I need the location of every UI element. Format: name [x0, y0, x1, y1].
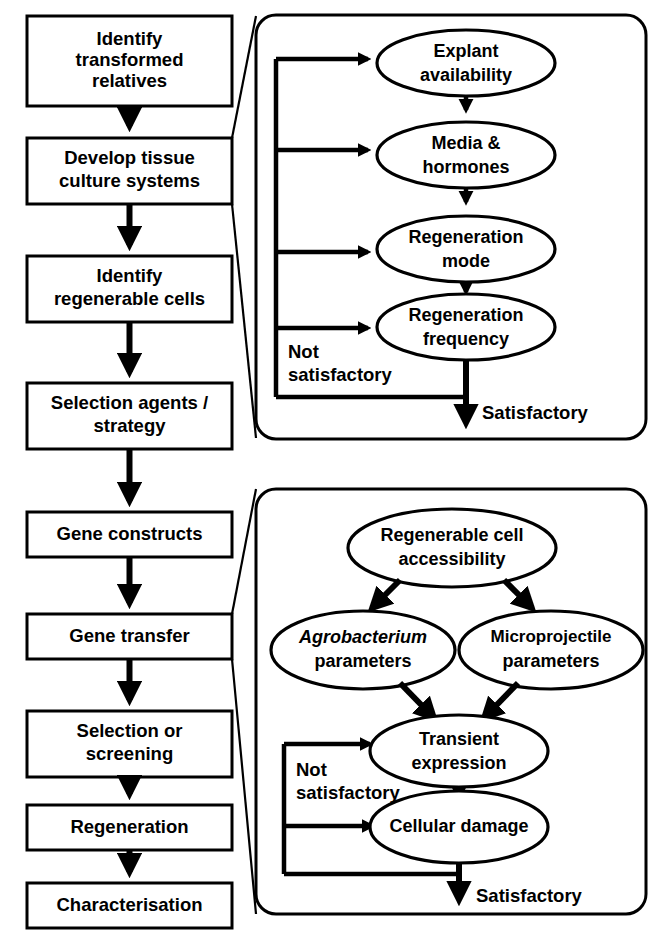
step-label-line-0: Gene constructs [57, 523, 203, 544]
step-label-line-2: relatives [92, 70, 167, 91]
node-label-line-1: expression [411, 753, 506, 773]
step-selection-agents-strategy[interactable]: Selection agents / strategy [27, 383, 232, 449]
step-label-line-1: regenerable cells [54, 288, 205, 309]
node-media-and-hormones[interactable]: Media & hormones [377, 122, 555, 188]
node-label-line-1: parameters [502, 651, 599, 671]
node-label-line-0: Explant [433, 41, 498, 61]
step-label-line-0: Characterisation [57, 894, 203, 915]
arrow-microprojectile-transient [484, 683, 518, 718]
callout-line-tissue-top [232, 16, 256, 138]
step-label-line-0: Gene transfer [69, 625, 189, 646]
node-label-line-1: parameters [314, 651, 411, 671]
step-regeneration[interactable]: Regeneration [27, 805, 232, 850]
callout-connectors [232, 16, 256, 914]
step-identify-regenerable-cells[interactable]: Identify regenerable cells [27, 256, 232, 322]
node-label-line-0: Microprojectile [491, 627, 612, 646]
step-selection-or-screening[interactable]: Selection or screening [27, 711, 232, 777]
loop-label-line-0: Not [288, 341, 319, 362]
node-label-line-1: frequency [423, 329, 509, 349]
node-regenerable-cell-accessibility[interactable]: Regenerable cell accessibility [348, 509, 556, 587]
loop-label-line-0: Not [296, 759, 327, 780]
gene-transfer-detail-panel: Regenerable cell accessibility Agrobacte… [256, 489, 646, 914]
node-label-line-0: Regenerable cell [380, 525, 523, 545]
node-label-line-1: mode [442, 251, 490, 271]
step-identify-transformed-relatives[interactable]: Identify transformed relatives [27, 16, 232, 106]
step-label-line-0: Selection or [77, 720, 183, 741]
exit-label-satisfactory: Satisfactory [476, 885, 583, 906]
step-label-line-0: Identify [97, 28, 163, 49]
step-label-line-0: Selection agents / [51, 392, 208, 413]
arrow-accessibility-agrobacterium [372, 580, 400, 608]
flowchart-diagram: Identify transformed relatives Develop t… [0, 0, 667, 944]
step-label-line-0: Develop tissue [64, 147, 195, 168]
callout-line-transfer-top [232, 489, 256, 614]
step-label-line-0: Regeneration [70, 816, 188, 837]
loop-label-line-1: satisfactory [296, 782, 401, 803]
node-label-line-0: Agrobacterium [298, 627, 427, 647]
node-label-line-0: Cellular damage [389, 816, 528, 836]
tissue-culture-detail-panel: Explant availability Media & hormones Re… [256, 15, 646, 439]
node-label-line-0: Transient [419, 729, 499, 749]
node-microprojectile-parameters[interactable]: Microprojectile parameters [459, 611, 643, 689]
diagram-canvas: Identify transformed relatives Develop t… [0, 0, 667, 944]
node-label-line-1: availability [420, 65, 512, 85]
node-regeneration-mode[interactable]: Regeneration mode [377, 216, 555, 282]
arrow-accessibility-microprojectile [504, 580, 532, 608]
step-label-line-1: strategy [94, 415, 167, 436]
loop-label-line-1: satisfactory [288, 364, 393, 385]
pipeline-column: Identify transformed relatives Develop t… [27, 16, 232, 928]
node-explant-availability[interactable]: Explant availability [377, 30, 555, 96]
step-label-line-1: transformed [76, 49, 184, 70]
arrow-agrobacterium-transient [400, 683, 434, 718]
node-regeneration-frequency[interactable]: Regeneration frequency [377, 294, 555, 360]
node-label-line-0: Regeneration [408, 227, 523, 247]
step-label-line-1: culture systems [59, 170, 200, 191]
node-label-line-1: hormones [422, 157, 509, 177]
step-label-line-1: screening [86, 743, 173, 764]
step-gene-constructs[interactable]: Gene constructs [27, 512, 232, 557]
node-label-line-0: Media & [431, 133, 500, 153]
node-label-line-1: accessibility [398, 549, 505, 569]
node-agrobacterium-parameters[interactable]: Agrobacterium parameters [271, 611, 455, 689]
step-gene-transfer[interactable]: Gene transfer [27, 614, 232, 659]
callout-line-tissue-bottom [232, 204, 256, 438]
exit-label-satisfactory: Satisfactory [482, 402, 589, 423]
node-transient-expression[interactable]: Transient expression [370, 715, 548, 787]
step-characterisation[interactable]: Characterisation [27, 883, 232, 928]
node-ellipse[interactable] [370, 715, 548, 787]
step-develop-tissue-culture-systems[interactable]: Develop tissue culture systems [27, 138, 232, 204]
step-label-line-0: Identify [97, 265, 163, 286]
callout-line-transfer-bottom [232, 659, 256, 914]
node-label-line-0: Regeneration [408, 305, 523, 325]
